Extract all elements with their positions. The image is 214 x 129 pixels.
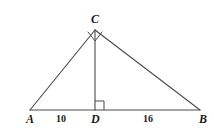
- vertex-label-d: D: [91, 113, 100, 125]
- segment-measure-ad: 10: [52, 114, 70, 124]
- right-angle-marker-d-icon: [95, 101, 104, 110]
- vertex-label-a: A: [26, 113, 34, 125]
- segment-ac: [30, 30, 95, 110]
- vertex-label-b: B: [199, 113, 207, 125]
- triangle-diagram-svg: [0, 0, 214, 129]
- vertex-label-c: C: [91, 13, 99, 25]
- segment-cb: [95, 30, 200, 110]
- segment-measure-db: 16: [139, 114, 157, 124]
- geometry-figure: A B C D 10 16: [0, 0, 214, 129]
